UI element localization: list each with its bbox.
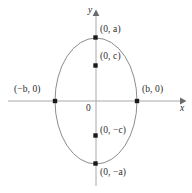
point-left-vertex [53, 99, 57, 103]
point-top-vertex [93, 35, 97, 39]
point-right-vertex [135, 99, 139, 103]
point-bottom-vertex [93, 161, 97, 165]
label-right-vertex: (b, 0) [142, 85, 163, 95]
y-axis-arrowhead [93, 10, 100, 17]
label-left-vertex: (−b, 0) [14, 85, 41, 95]
label-y-axis: y [88, 6, 92, 16]
label-origin: 0 [86, 104, 91, 114]
label-upper-focus: (0, c) [100, 52, 121, 62]
point-upper-focus [93, 63, 97, 67]
point-lower-focus [93, 133, 97, 137]
label-x-axis: x [180, 104, 184, 114]
label-lower-focus: (0, −c) [100, 126, 126, 136]
label-top-vertex: (0, a) [100, 25, 121, 35]
ellipse-diagram-canvas [0, 0, 192, 193]
ellipse-figure: (0, a) (0, c) (0, −c) (0, −a) (−b, 0) (b… [0, 0, 192, 193]
label-bottom-vertex: (0, −a) [100, 168, 126, 178]
